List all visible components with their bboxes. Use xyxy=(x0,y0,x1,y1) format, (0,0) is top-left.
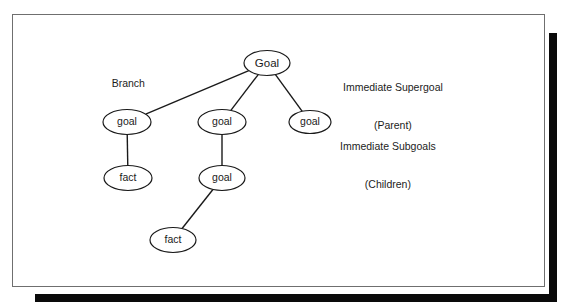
node-label-f1: fact xyxy=(120,171,137,183)
tree-node-g3[interactable]: goal xyxy=(289,111,331,134)
annotation-branch-label: Branch xyxy=(112,77,145,89)
figure-canvas: Goalgoalgoalgoalfactgoalfact Branch Imme… xyxy=(0,0,565,307)
tree-node-g4[interactable]: goal xyxy=(199,166,245,191)
node-label-root: Goal xyxy=(255,57,279,69)
node-label-f2: fact xyxy=(165,233,182,245)
tree-node-root[interactable]: Goal xyxy=(244,51,290,76)
tree-node-f2[interactable]: fact xyxy=(150,228,196,253)
tree-edge-root-g3 xyxy=(275,75,302,112)
goal-tree-diagram: Goalgoalgoalgoalfactgoalfact xyxy=(0,0,565,307)
node-label-g3: goal xyxy=(300,115,320,127)
tree-node-g2[interactable]: goal xyxy=(198,110,246,135)
annotation-supergoal-line1: Immediate Supergoal xyxy=(343,81,443,94)
tree-edges xyxy=(127,71,302,229)
annotation-branch: Branch xyxy=(100,64,145,102)
annotation-subgoals-line2: (Children) xyxy=(340,178,436,191)
node-label-g4: goal xyxy=(212,171,232,183)
tree-node-g1[interactable]: goal xyxy=(103,110,151,135)
tree-edge-g4-f2 xyxy=(182,189,213,228)
tree-node-f1[interactable]: fact xyxy=(104,166,152,191)
tree-edge-root-g2 xyxy=(231,75,258,111)
node-label-g2: goal xyxy=(212,115,232,127)
tree-edge-g1-f1 xyxy=(127,135,128,166)
annotation-subgoals-line1: Immediate Subgoals xyxy=(340,140,436,153)
node-label-g1: goal xyxy=(117,115,137,127)
annotation-subgoals: Immediate Subgoals (Children) xyxy=(340,115,436,215)
